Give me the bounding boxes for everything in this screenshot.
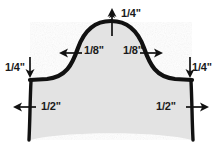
right-side-edge [191,81,193,140]
technical-drawing-figure: 1/4" 1/8" 1/8" 1/4" 1/4" 1/2" 1/2" [0,0,222,144]
dimension-label-mid-right-inset: 1/8" [123,45,143,56]
dimension-label-bottom-left-offset: 1/2" [41,101,61,112]
profile-diagram-svg [0,0,222,144]
dimension-label-bottom-right-offset: 1/2" [156,101,176,112]
dimension-label-top-height: 1/4" [121,8,141,19]
profile-shape-fill [30,22,192,140]
dimension-label-left-drop: 1/4" [5,62,25,73]
dimension-label-right-drop: 1/4" [192,62,212,73]
dimension-label-mid-left-inset: 1/8" [84,45,104,56]
left-side-edge [29,81,31,140]
